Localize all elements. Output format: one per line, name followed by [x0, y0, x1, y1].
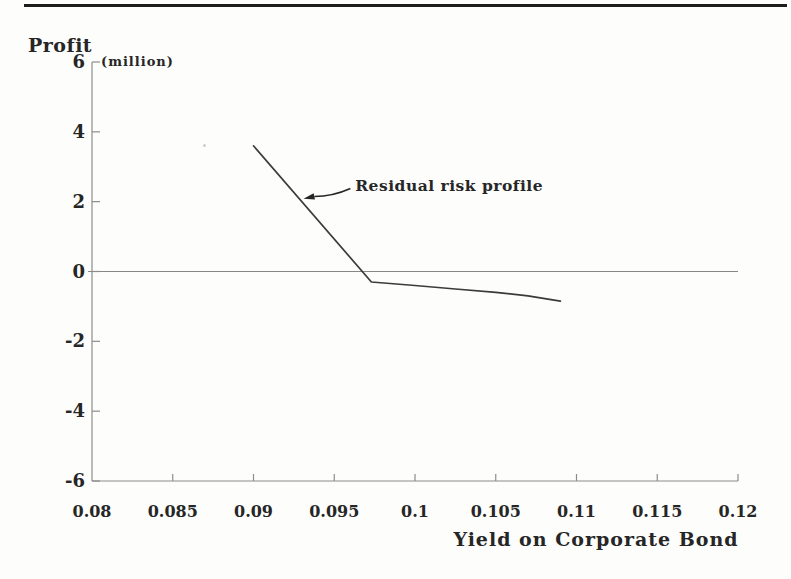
- y-tick-label: 2: [72, 191, 85, 212]
- x-tick-label: 0.085: [148, 502, 198, 521]
- y-tick-label: 4: [72, 121, 85, 142]
- x-tick-label: 0.11: [557, 502, 596, 521]
- x-tick-label: 0.09: [234, 502, 273, 521]
- x-tick-label: 0.105: [471, 502, 521, 521]
- y-tick-label: 6: [72, 51, 85, 72]
- y-tick-label: -6: [65, 470, 85, 491]
- scanned-chart-page: Profit (million) Yield on Corporate Bond…: [0, 0, 791, 579]
- x-tick-label: 0.095: [309, 502, 359, 521]
- y-tick-label: -2: [65, 330, 85, 351]
- annotation-label: Residual risk profile: [355, 176, 543, 195]
- x-tick-label: 0.115: [632, 502, 682, 521]
- annotation-arrow: [314, 188, 350, 196]
- residual-risk-line: [254, 146, 561, 301]
- profit-vs-yield-chart: Profit (million) Yield on Corporate Bond…: [0, 0, 791, 579]
- y-tick-label: 0: [72, 261, 85, 282]
- scan-speck: [203, 144, 206, 147]
- x-tick-label: 0.12: [719, 502, 758, 521]
- x-axis-title: Yield on Corporate Bond: [452, 528, 738, 550]
- chart-generated-layer: 0.080.0850.090.0950.10.1050.110.1150.126…: [65, 51, 757, 521]
- annotation-arrowhead: [304, 193, 315, 199]
- y-axis-unit-label: (million): [101, 54, 174, 69]
- x-tick-label: 0.1: [401, 502, 429, 521]
- x-tick-label: 0.08: [73, 502, 112, 521]
- y-tick-label: -4: [65, 400, 85, 421]
